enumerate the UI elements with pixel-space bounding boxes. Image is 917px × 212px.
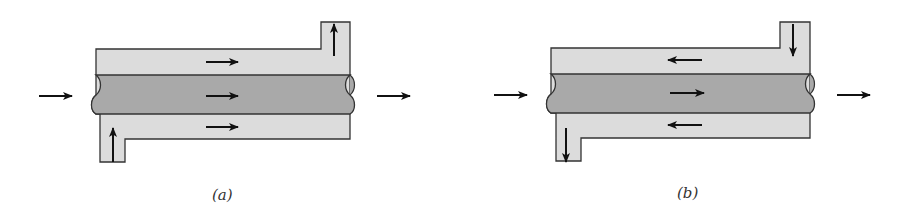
- panel-b-counterflow: [494, 22, 870, 162]
- inner-tube: [92, 75, 355, 114]
- tube-break-right: [350, 75, 355, 95]
- caption-a: (a): [212, 186, 233, 204]
- tube-break-left: [547, 94, 552, 113]
- tube-break-left: [92, 95, 97, 114]
- caption-b: (b): [677, 184, 698, 202]
- panel-a-parallel-flow: [39, 22, 410, 162]
- tube-break-right: [810, 74, 815, 94]
- diagram-canvas: [0, 0, 917, 212]
